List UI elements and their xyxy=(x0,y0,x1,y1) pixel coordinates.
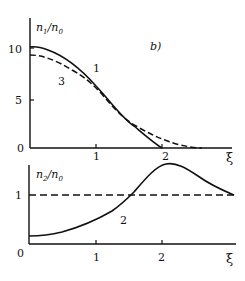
curve-label-1: 1 xyxy=(93,63,100,74)
curve-label-2: 2 xyxy=(120,215,127,226)
x-axis-label-bottom: ξ xyxy=(226,252,233,265)
y-tick-1-bottom: 1 xyxy=(15,190,22,201)
top-y-axis-label: n1/n0 xyxy=(36,22,63,36)
curve-label-3: 3 xyxy=(58,76,65,87)
x-axis-label-top: ξ xyxy=(226,151,233,164)
panel-label: b) xyxy=(150,41,161,52)
x-tick-1-bottom: 1 xyxy=(93,252,100,263)
x-tick-2-bottom: 2 xyxy=(158,252,165,263)
y-tick-0-bottom: 0 xyxy=(17,248,24,259)
bottom-y-axis-label: n2/n0 xyxy=(36,169,63,183)
x-tick-2-top: 2 xyxy=(162,151,169,162)
x-tick-1-top: 1 xyxy=(93,151,100,162)
chart-canvas xyxy=(0,0,245,281)
y-tick-5: 5 xyxy=(15,95,22,106)
y-tick-10: 10 xyxy=(8,44,22,55)
series-3-curve xyxy=(30,55,202,148)
y-tick-0-top: 0 xyxy=(17,143,24,154)
